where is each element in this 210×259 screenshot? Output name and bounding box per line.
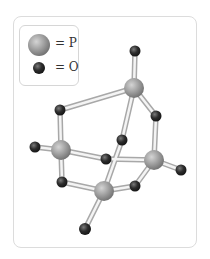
oxygen-atom: [151, 111, 162, 122]
phosphorus-atom: [94, 181, 114, 201]
oxygen-atom: [130, 46, 141, 57]
oxygen-atom: [176, 165, 187, 176]
phosphorus-atom: [51, 140, 71, 160]
legend-label-oxygen: = O: [55, 60, 79, 74]
legend: = P = O: [19, 25, 79, 86]
legend-label-phosphorus: = P: [55, 36, 77, 50]
oxygen-atom: [130, 181, 141, 192]
legend-item-oxygen: = O: [20, 61, 78, 81]
oxygen-atom: [55, 105, 66, 116]
oxygen-atom: [30, 142, 41, 153]
phosphorus-atom: [144, 150, 164, 170]
phosphorus-sphere-icon: [26, 32, 52, 58]
phosphorus-atom: [124, 78, 144, 98]
legend-item-phosphorus: = P: [20, 34, 78, 54]
oxygen-atom: [79, 223, 91, 235]
oxygen-atom: [117, 135, 128, 146]
oxygen-atom: [101, 154, 112, 165]
oxygen-atom: [57, 177, 68, 188]
oxygen-sphere-icon: [32, 61, 46, 75]
